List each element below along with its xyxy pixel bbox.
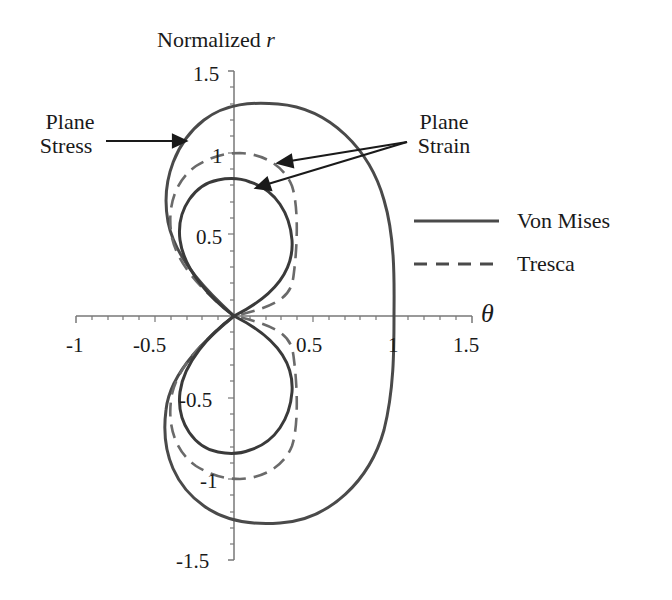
x-tick-0.5: 0.5 [296, 334, 322, 356]
y-axis-title-var: r [266, 27, 275, 52]
y-tick-1: 1 [212, 145, 223, 167]
plane-stress-label: Plane Stress [38, 110, 102, 158]
legend-von-mises-label: Von Mises [517, 209, 610, 233]
y-axis-title: Normalized r [157, 28, 275, 52]
plane-stress-arrow [106, 135, 186, 147]
y-tick-0.5: 0.5 [196, 226, 222, 248]
x-tick-neg1: -1 [66, 334, 84, 356]
plot-area [0, 0, 672, 600]
legend-tresca-label: Tresca [517, 252, 575, 276]
y-tick-1.5: 1.5 [193, 63, 219, 85]
y-axis-title-text: Normalized [157, 27, 261, 52]
y-tick-neg1: -1 [200, 470, 218, 492]
x-tick-1: 1 [388, 334, 399, 356]
y-tick-neg0.5: -0.5 [179, 389, 212, 411]
x-axis-title: θ [481, 302, 494, 326]
x-tick-1.5: 1.5 [453, 334, 479, 356]
plane-strain-label: Plane Strain [411, 110, 477, 158]
x-tick-neg0.5: -0.5 [133, 334, 166, 356]
y-tick-neg1.5: -1.5 [176, 550, 209, 572]
x-axis [76, 316, 472, 323]
